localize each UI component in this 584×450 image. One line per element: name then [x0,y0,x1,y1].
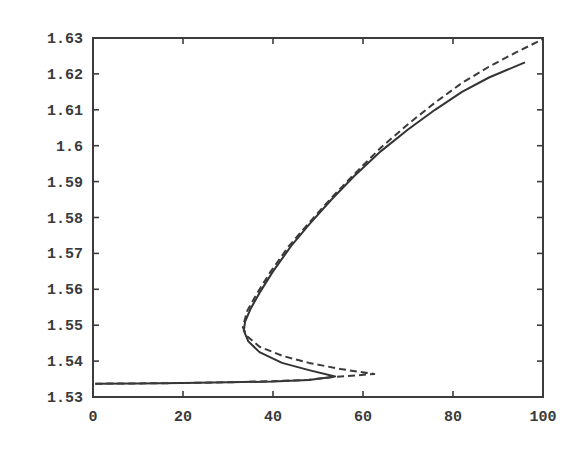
y-tick-label: 1.57 [47,246,83,263]
y-tick-label: 1.56 [47,282,83,299]
y-tick-label: 1.59 [47,175,83,192]
x-tick-label: 80 [444,409,462,426]
x-tick-label: 0 [88,409,97,426]
y-tick-label: 1.63 [47,31,83,48]
y-tick-label: 1.61 [47,103,83,120]
x-tick-label: 20 [174,409,192,426]
y-tick-label: 1.55 [47,318,83,335]
line-chart: 1.531.541.551.561.571.581.591.61.611.621… [0,0,584,450]
y-tick-label: 1.6 [56,139,83,156]
plot-frame [93,38,543,397]
dashed-curve [95,39,543,384]
x-tick-label: 100 [529,409,556,426]
y-tick-label: 1.62 [47,67,83,84]
x-tick-label: 60 [354,409,372,426]
y-tick-label: 1.58 [47,211,83,228]
y-tick-label: 1.53 [47,390,83,407]
y-tick-label: 1.54 [47,354,83,371]
x-tick-label: 40 [264,409,282,426]
solid-curve [95,62,525,383]
x-axis: 020406080100 [88,38,556,426]
